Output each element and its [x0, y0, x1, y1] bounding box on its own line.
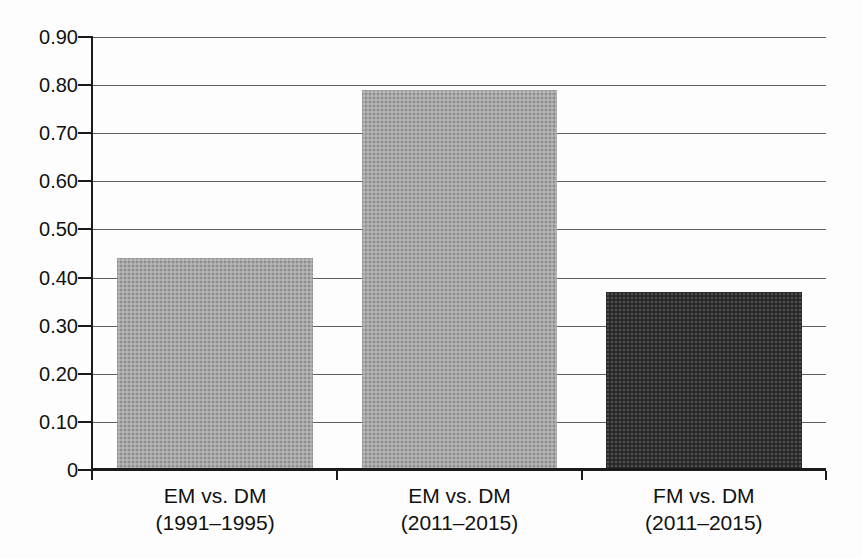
x-axis-category-label-2: EM vs. DM(2011–2015) — [337, 482, 581, 536]
y-axis-tick — [78, 469, 93, 471]
x-axis-tick — [825, 471, 827, 480]
bar-chart-figure: 0.900.800.700.600.500.400.300.200.100EM … — [0, 0, 862, 558]
x-axis-category-label-line: EM vs. DM — [337, 482, 581, 509]
y-axis-tick — [78, 132, 93, 134]
gridline-0.90 — [93, 37, 826, 38]
y-axis — [91, 37, 93, 480]
bar-2 — [362, 90, 557, 470]
x-axis-tick — [581, 471, 583, 480]
x-axis-category-label-line: (2011–2015) — [582, 509, 826, 536]
y-axis-tick-label: 0.20 — [6, 363, 78, 385]
bar-1 — [117, 258, 312, 470]
y-axis-tick-label: 0.70 — [6, 122, 78, 144]
x-axis-tick — [336, 471, 338, 480]
x-axis-category-label-line: EM vs. DM — [93, 482, 337, 509]
x-axis-category-label-line: FM vs. DM — [582, 482, 826, 509]
y-axis-tick — [78, 325, 93, 327]
y-axis-tick-label: 0 — [6, 459, 78, 481]
y-axis-tick — [78, 228, 93, 230]
y-axis-tick-label: 0.10 — [6, 411, 78, 433]
y-axis-tick — [78, 36, 93, 38]
y-axis-tick-label: 0.80 — [6, 74, 78, 96]
bar-3 — [606, 292, 801, 470]
y-axis-tick — [78, 84, 93, 86]
y-axis-tick — [78, 277, 93, 279]
x-axis-category-label-line: (1991–1995) — [93, 509, 337, 536]
y-axis-tick-label: 0.60 — [6, 170, 78, 192]
x-axis-category-label-3: FM vs. DM(2011–2015) — [582, 482, 826, 536]
gridline-0.80 — [93, 85, 826, 86]
y-axis-tick — [78, 421, 93, 423]
x-axis-category-label-1: EM vs. DM(1991–1995) — [93, 482, 337, 536]
x-axis-category-label-line: (2011–2015) — [337, 509, 581, 536]
y-axis-tick-label: 0.30 — [6, 315, 78, 337]
y-axis-tick — [78, 180, 93, 182]
y-axis-tick — [78, 373, 93, 375]
y-axis-tick-label: 0.50 — [6, 218, 78, 240]
x-axis — [91, 468, 826, 471]
y-axis-tick-label: 0.90 — [6, 26, 78, 48]
y-axis-tick-label: 0.40 — [6, 267, 78, 289]
plot-area — [93, 37, 826, 470]
